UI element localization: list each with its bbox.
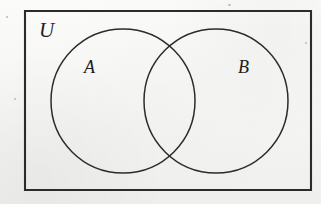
venn-diagram-figure: U A B bbox=[0, 0, 321, 204]
set-b-label: B bbox=[238, 58, 249, 76]
set-a-circle bbox=[51, 29, 195, 173]
universal-set-label: U bbox=[39, 20, 54, 41]
set-b-circle bbox=[144, 29, 288, 173]
universal-set-rectangle bbox=[25, 11, 311, 190]
set-a-label: A bbox=[84, 58, 95, 76]
